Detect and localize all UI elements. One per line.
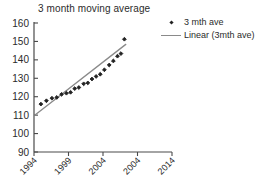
y-axis-tick-label: 150 xyxy=(12,36,29,47)
data-point xyxy=(102,68,106,72)
plot-area: 90100110120130140150160 1994199920042004… xyxy=(0,0,260,184)
data-point xyxy=(69,90,73,94)
data-point xyxy=(39,102,43,106)
y-axis-tick-label: 90 xyxy=(18,147,30,158)
y-axis-tick-label: 160 xyxy=(12,18,29,29)
data-point xyxy=(86,81,90,85)
data-point xyxy=(116,54,120,58)
data-point xyxy=(107,63,111,67)
data-point xyxy=(82,82,86,86)
data-point xyxy=(122,37,126,41)
data-point xyxy=(111,59,115,63)
data-point xyxy=(94,75,98,79)
x-axis-tick-label: 2004 xyxy=(87,155,108,176)
y-axis: 90100110120130140150160 xyxy=(12,18,38,158)
x-axis: 19941999200420042014 xyxy=(18,152,177,177)
data-point xyxy=(73,87,77,91)
scatter-series xyxy=(39,37,126,106)
data-point xyxy=(90,77,94,81)
data-point xyxy=(45,99,49,103)
x-axis-tick-label: 1994 xyxy=(18,155,39,176)
trendline xyxy=(35,44,126,115)
y-axis-tick-label: 140 xyxy=(12,54,29,65)
y-axis-tick-label: 120 xyxy=(12,91,29,102)
data-point xyxy=(119,52,123,56)
y-axis-tick-label: 110 xyxy=(13,110,29,121)
data-point xyxy=(77,86,81,90)
x-axis-tick-label: 2014 xyxy=(156,155,177,176)
data-point xyxy=(50,96,54,100)
x-axis-tick-label: 2004 xyxy=(121,155,142,176)
x-axis-tick-label: 1999 xyxy=(52,155,73,176)
chart-container: 3 month moving average 3 mth ave Linear … xyxy=(0,0,260,184)
y-axis-tick-label: 100 xyxy=(12,128,29,139)
trendline-series xyxy=(35,44,126,115)
y-axis-tick-label: 130 xyxy=(12,73,29,84)
data-point xyxy=(98,72,102,76)
